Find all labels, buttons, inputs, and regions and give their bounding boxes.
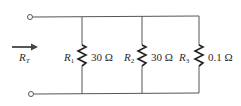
r1-label-sub: 1 bbox=[71, 57, 75, 65]
rt-label-main: R bbox=[19, 51, 26, 63]
total-resistance-label: RT bbox=[19, 52, 30, 65]
circuit-wiring bbox=[0, 0, 241, 106]
rt-label-sub: T bbox=[26, 57, 30, 65]
r2-label: R2 bbox=[124, 52, 134, 65]
r3-label: R3 bbox=[179, 52, 189, 65]
r2-label-main: R bbox=[124, 51, 131, 63]
r1-value: 30 Ω bbox=[91, 52, 113, 63]
r3-value: 0.1 Ω bbox=[208, 52, 233, 63]
top-terminal-icon bbox=[28, 15, 33, 20]
bottom-terminal-icon bbox=[29, 92, 34, 97]
r1-label-main: R bbox=[64, 51, 71, 63]
r1-label: R1 bbox=[64, 52, 74, 65]
r2-value: 30 Ω bbox=[151, 52, 173, 63]
resistor-r3-symbol bbox=[195, 16, 203, 93]
resistor-r1-symbol bbox=[78, 17, 86, 94]
bottom-rail-wire bbox=[34, 93, 199, 94]
top-rail-wire bbox=[33, 16, 199, 17]
parallel-circuit-diagram: RT R1 30 Ω R2 30 Ω R3 0.1 Ω bbox=[0, 0, 241, 106]
resistor-r2-symbol bbox=[138, 16, 146, 93]
r3-label-sub: 3 bbox=[186, 57, 190, 65]
r3-label-main: R bbox=[179, 51, 186, 63]
arrow-right-icon bbox=[12, 44, 38, 51]
r2-label-sub: 2 bbox=[131, 57, 135, 65]
